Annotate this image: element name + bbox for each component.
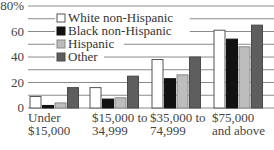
y-axis-ticks: 80%6040200 xyxy=(0,0,24,115)
y-tick-label: 0 xyxy=(18,100,25,115)
bar-hispanic-3 xyxy=(239,47,250,108)
x-category-label: $15,000 xyxy=(28,123,70,138)
legend-swatch xyxy=(57,14,65,22)
bar-chart: 80%6040200 White non-HispanicBlack non-H… xyxy=(0,0,274,150)
legend-swatch xyxy=(57,27,65,35)
legend-label: Other xyxy=(68,49,98,64)
legend-swatch xyxy=(57,53,65,61)
bar-hispanic-1 xyxy=(115,98,126,108)
bar-black-non-hispanic-3 xyxy=(227,39,238,108)
x-category-label: 74,999 xyxy=(150,123,186,138)
bar-black-non-hispanic-1 xyxy=(103,99,114,108)
bar-other-2 xyxy=(190,57,201,108)
bar-white-non-hispanic-1 xyxy=(90,88,101,108)
bar-white-non-hispanic-3 xyxy=(214,30,225,108)
bar-hispanic-2 xyxy=(177,75,188,108)
legend: White non-HispanicBlack non-HispanicHisp… xyxy=(55,10,190,64)
bar-black-non-hispanic-2 xyxy=(165,79,176,108)
bar-hispanic-0 xyxy=(55,103,66,108)
bar-white-non-hispanic-2 xyxy=(152,60,163,108)
legend-swatch xyxy=(57,40,65,48)
bar-white-non-hispanic-0 xyxy=(30,97,41,108)
x-axis-labels: Under$15,000$15,000 to34,999$35,000 to74… xyxy=(28,110,265,138)
bar-other-3 xyxy=(252,25,263,108)
bar-other-1 xyxy=(128,76,139,108)
x-category-label: and above xyxy=(212,123,265,138)
y-tick-label: 20 xyxy=(11,75,24,90)
y-tick-label: 60 xyxy=(11,24,24,39)
bar-other-0 xyxy=(68,88,79,108)
bar-black-non-hispanic-0 xyxy=(43,105,54,108)
y-tick-label: 80% xyxy=(0,0,24,13)
x-category-label: 34,999 xyxy=(92,123,128,138)
y-tick-label: 40 xyxy=(11,49,24,64)
